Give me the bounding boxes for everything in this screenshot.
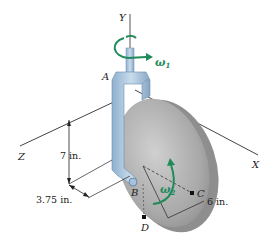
- point-d-marker: [142, 215, 146, 219]
- offset-dimension: [69, 176, 130, 198]
- z-axis-label: Z: [17, 151, 26, 162]
- point-c-marker: [190, 191, 194, 195]
- point-d-label: D: [140, 222, 149, 233]
- offset-dimension-label: 3.75 in.: [36, 194, 72, 205]
- y-axis-label: Y: [119, 12, 127, 23]
- diagram-canvas: Y Z X A B C D ω1: [0, 0, 271, 234]
- point-a-label: A: [101, 71, 109, 82]
- point-c-label: C: [197, 188, 205, 199]
- x-axis-label: X: [251, 159, 260, 170]
- radius-dimension-label: 6 in.: [207, 196, 228, 207]
- point-b-label: B: [130, 187, 138, 198]
- omega1-label: ω1: [155, 56, 170, 70]
- height-dimension-label: 7 in.: [60, 150, 81, 161]
